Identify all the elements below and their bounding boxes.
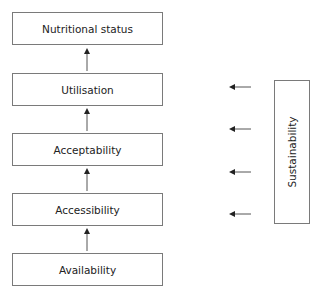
arrow-up-icon (84, 168, 90, 191)
arrow-up-icon (84, 48, 90, 71)
arrow-up-icon (84, 228, 90, 251)
arrow-left-icon (229, 126, 251, 132)
arrow-left-icon (229, 169, 251, 175)
arrow-left-icon (229, 84, 251, 90)
arrow-left-icon (229, 211, 251, 217)
arrow-up-icon (84, 108, 90, 131)
arrows-layer (0, 0, 321, 301)
